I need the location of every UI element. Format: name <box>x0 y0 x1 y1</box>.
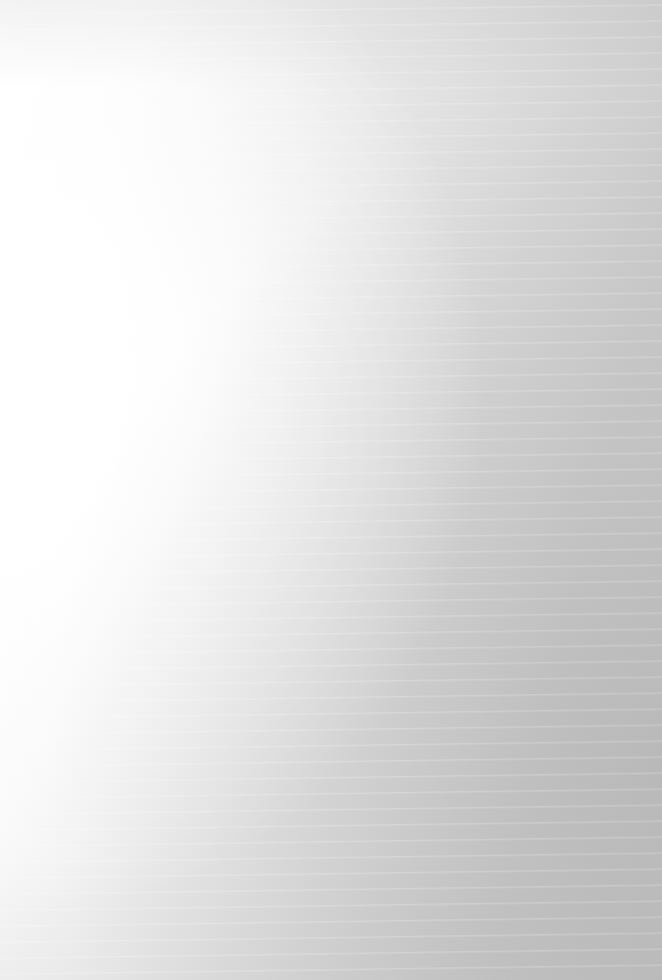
heading-line <box>60 48 210 70</box>
text-line <box>125 772 553 779</box>
paragraph-3 <box>125 258 555 318</box>
text-line <box>125 574 555 581</box>
text-line <box>125 812 329 819</box>
text-line <box>125 298 477 305</box>
text-line <box>125 692 550 699</box>
text-line <box>125 496 555 503</box>
text-line <box>125 672 555 679</box>
text-line <box>125 614 555 621</box>
text-line <box>125 200 555 207</box>
paragraph-7 <box>125 574 555 654</box>
text-line <box>60 48 210 57</box>
text-line <box>125 792 555 799</box>
text-line <box>125 180 553 187</box>
text-line <box>125 476 423 483</box>
document-page: Overexposed / faded scan: text is presen… <box>0 0 662 980</box>
text-line <box>125 456 554 463</box>
text-line <box>125 436 555 443</box>
text-line <box>125 516 534 523</box>
text-line <box>125 594 553 601</box>
paragraph-4 <box>125 336 555 376</box>
paragraph-6 <box>125 496 555 536</box>
text-line <box>125 356 549 363</box>
text-line <box>125 732 385 739</box>
text-line <box>125 258 555 265</box>
text-line <box>125 712 555 719</box>
text-line <box>150 396 480 403</box>
paragraph-1 <box>125 122 555 162</box>
paragraph-9 <box>125 772 555 832</box>
text-line <box>125 122 555 129</box>
paragraph-5 <box>125 436 555 496</box>
text-line <box>125 278 551 285</box>
horizontal-separator <box>90 545 635 547</box>
indented-line <box>150 396 480 416</box>
text-line <box>125 142 543 149</box>
text-line <box>125 220 540 227</box>
paragraph-2 <box>125 180 555 240</box>
paragraph-8 <box>125 672 555 752</box>
text-line <box>125 336 555 343</box>
page-content <box>0 0 662 980</box>
text-line <box>125 634 471 641</box>
